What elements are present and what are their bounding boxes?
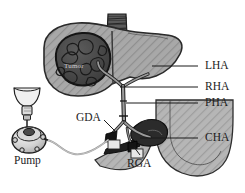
hepatic-tumor: [56, 33, 111, 86]
catheter-tubing[interactable]: [47, 140, 108, 154]
infusion-pump[interactable]: [12, 127, 48, 153]
label-tumor: Tumor: [64, 62, 84, 70]
label-pha: PHA: [205, 97, 228, 109]
label-gda: GDA: [76, 112, 101, 124]
leader-line-gda: [104, 120, 117, 133]
figure-canvas: LHA RHA PHA CHA GDA RGA Pump Tumor: [0, 0, 245, 193]
label-cha: CHA: [205, 132, 229, 144]
label-rha: RHA: [205, 81, 229, 93]
label-pump: Pump: [14, 155, 41, 167]
label-rga: RGA: [127, 158, 151, 170]
label-lha: LHA: [205, 60, 229, 72]
funnel-reservoir: [14, 88, 40, 106]
